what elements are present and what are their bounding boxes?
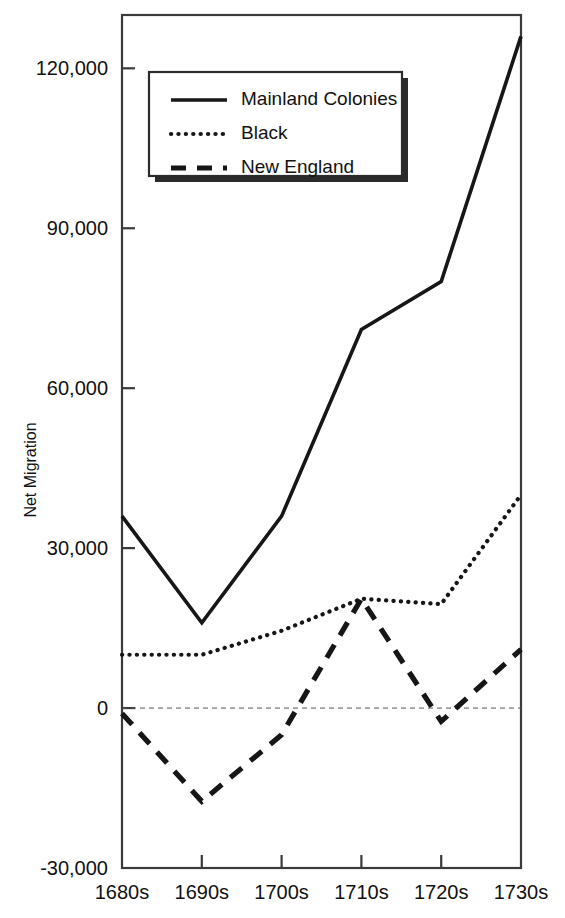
y-axis-title: Net Migration <box>22 422 39 517</box>
legend-label-new-england: New England <box>241 156 354 177</box>
series-line-black <box>122 495 521 655</box>
x-tick-label-1720s: 1720s <box>414 881 469 903</box>
y-tick-label: 30,000 <box>47 537 108 559</box>
chart-canvas: -30,000030,00060,00090,000120,000 1680s1… <box>0 0 565 918</box>
x-tick-label-1680s: 1680s <box>95 881 150 903</box>
legend-label-mainland-colonies: Mainland Colonies <box>241 88 397 109</box>
y-axis-ticks: -30,000030,00060,00090,000120,000 <box>36 57 135 879</box>
x-tick-label-1700s: 1700s <box>254 881 309 903</box>
x-axis-ticks: 1680s1690s1700s1710s1720s1730s <box>95 855 549 903</box>
y-tick-label: 90,000 <box>47 217 108 239</box>
series-line-new-england <box>122 599 521 802</box>
y-tick-label: -30,000 <box>40 857 108 879</box>
net-migration-chart: -30,000030,00060,00090,000120,000 1680s1… <box>0 0 565 918</box>
x-tick-label-1690s: 1690s <box>175 881 230 903</box>
chart-legend: Mainland ColoniesBlackNew England <box>149 72 408 182</box>
x-tick-label-1730s: 1730s <box>494 881 549 903</box>
y-tick-label: 60,000 <box>47 377 108 399</box>
y-tick-label: 120,000 <box>36 57 108 79</box>
y-tick-label: 0 <box>97 697 108 719</box>
x-tick-label-1710s: 1710s <box>334 881 389 903</box>
legend-label-black: Black <box>241 122 288 143</box>
